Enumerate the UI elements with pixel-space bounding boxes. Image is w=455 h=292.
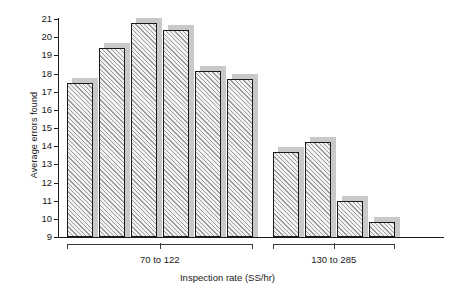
y-tick-mark (54, 92, 58, 93)
y-tick-mark (54, 55, 58, 56)
y-tick-mark (54, 219, 58, 220)
y-axis-line (58, 18, 59, 238)
y-tick-mark (54, 164, 58, 165)
bar (369, 222, 395, 237)
y-tick-label: 19 (41, 51, 52, 61)
y-tick-label: 20 (41, 32, 52, 42)
group-brace (269, 240, 399, 249)
y-tick-label: 9 (47, 232, 52, 242)
y-tick-label: 12 (41, 178, 52, 188)
x-axis-line (58, 237, 444, 238)
bar (131, 23, 157, 237)
bar (195, 71, 221, 237)
bar (273, 152, 299, 237)
y-tick-label: 16 (41, 105, 52, 115)
y-tick-mark (54, 74, 58, 75)
y-tick-label: 21 (41, 14, 52, 24)
group-brace (63, 240, 257, 249)
bar-chart-figure: Average errors found 9101112131415161718… (0, 0, 455, 292)
y-tick-label: 15 (41, 123, 52, 133)
bar (305, 142, 331, 237)
y-axis-label: Average errors found (29, 50, 39, 220)
y-tick-mark (54, 110, 58, 111)
bar (163, 30, 189, 237)
y-tick-label: 17 (41, 87, 52, 97)
bar (337, 201, 363, 237)
y-tick-mark (54, 146, 58, 147)
y-tick-mark (54, 37, 58, 38)
y-tick-label: 13 (41, 160, 52, 170)
group-label: 70 to 122 (140, 254, 180, 265)
y-tick-label: 11 (42, 196, 52, 206)
plot-area: 9101112131415161718192021 (58, 18, 444, 238)
bar (67, 83, 93, 237)
bar (227, 79, 253, 237)
y-tick-mark (54, 183, 58, 184)
y-tick-label: 10 (41, 214, 52, 224)
y-tick-label: 18 (41, 69, 52, 79)
x-axis-label: Inspection rate (SS/hr) (0, 272, 455, 283)
group-label: 130 to 285 (311, 254, 356, 265)
y-tick-label: 14 (41, 141, 52, 151)
y-tick-mark (54, 237, 58, 238)
y-tick-mark (54, 19, 58, 20)
bar (99, 48, 125, 237)
y-tick-mark (54, 201, 58, 202)
y-tick-mark (54, 128, 58, 129)
